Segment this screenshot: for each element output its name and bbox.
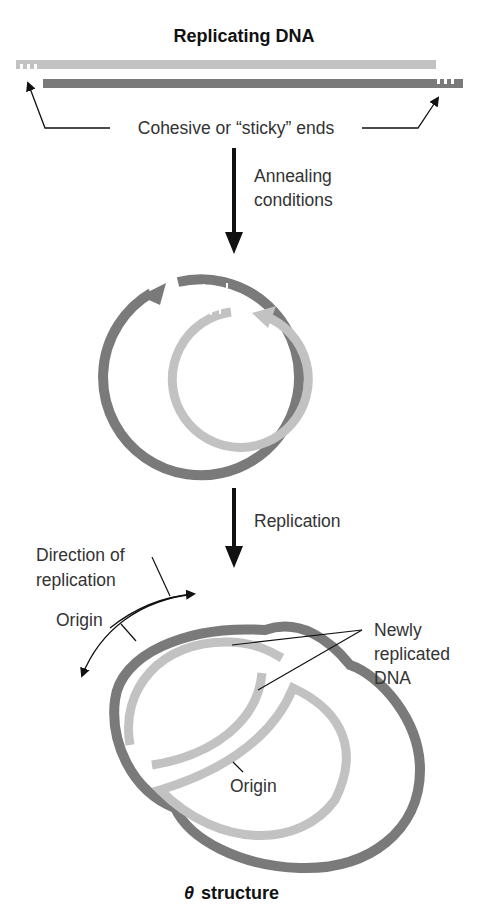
origin-label-inner: Origin — [230, 776, 277, 796]
replication-step: Replication — [225, 488, 341, 568]
light-strand-top — [40, 60, 436, 69]
dna-replication-diagram: Replicating DNA Cohesive or “sticky” end… — [0, 0, 489, 915]
footer-label: structure — [201, 883, 279, 903]
origin-label-outer: Origin — [56, 610, 103, 630]
sticky-ends-label: Cohesive or “sticky” ends — [138, 118, 335, 138]
annealing-label-2: conditions — [254, 190, 333, 210]
linear-dna — [16, 60, 463, 88]
annealing-step: Annealing conditions — [225, 148, 333, 254]
diagram-title: Replicating DNA — [173, 26, 314, 46]
sticky-end-right — [432, 79, 463, 88]
direction-label-2: replication — [36, 570, 116, 590]
newly-label-2: replicated — [374, 644, 450, 664]
down-arrow-icon — [225, 232, 243, 254]
dark-strand-bottom — [43, 79, 435, 88]
annealing-label-1: Annealing — [254, 166, 332, 186]
theta-symbol: θ — [184, 883, 194, 903]
direction-label-1: Direction of — [36, 545, 125, 565]
replication-label: Replication — [254, 511, 341, 531]
newly-label-1: Newly — [374, 620, 422, 640]
down-arrow-icon — [225, 546, 243, 568]
newly-label-3: DNA — [374, 668, 411, 688]
inner-light-strand — [172, 312, 308, 447]
sticky-ends-callout: Cohesive or “sticky” ends — [28, 83, 438, 138]
circular-dna — [103, 279, 308, 475]
footer-caption: θ structure — [184, 883, 279, 903]
theta-structure: Origin Newly replicated DNA — [114, 620, 450, 868]
